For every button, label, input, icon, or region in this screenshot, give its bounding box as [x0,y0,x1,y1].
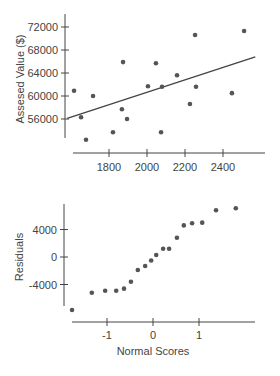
y-axis-ticks: -400004000 [29,224,68,291]
y-axis-title: Residuals [13,232,25,281]
data-points [72,29,247,142]
data-point [200,220,205,225]
residuals-normal-plot: -400004000 -101 Residuals Normal Scores [13,204,255,357]
y-tick-label: 0 [51,251,57,263]
data-point [167,246,172,251]
y-tick-label: 56000 [27,113,58,125]
data-point [136,268,141,273]
x-tick-label: 2200 [173,161,197,173]
x-tick-label: 2000 [135,161,159,173]
x-tick-label: 2400 [211,161,235,173]
y-tick-label: 4000 [33,224,57,236]
data-point [90,290,95,295]
data-point [154,61,159,66]
y-tick-label: -4000 [29,279,57,291]
x-tick-label: 1800 [97,161,121,173]
data-point [129,279,134,284]
y-axis-title: Assesed Value ($) [14,34,26,123]
data-point [182,223,187,228]
data-point [188,102,193,107]
data-point [125,117,130,122]
data-point [234,206,239,211]
data-point [84,137,89,142]
y-tick-label: 60000 [27,90,58,102]
data-point [242,29,247,34]
data-point [194,85,199,90]
data-point [121,60,126,65]
data-point [230,91,235,96]
data-point [175,73,180,78]
y-tick-label: 64000 [27,67,58,79]
x-axis-ticks: -101 [102,318,202,341]
data-point [143,264,148,269]
data-points [70,206,238,312]
data-point [111,130,116,135]
assessed-value-scatter-plot: 5600060000640006800072000 18002000220024… [14,14,265,173]
data-point [120,107,125,112]
data-point [175,235,180,240]
data-point [159,130,164,135]
x-tick-label: 1 [196,329,202,341]
data-point [91,94,96,99]
y-tick-label: 72000 [27,21,58,33]
data-point [193,33,198,38]
data-point [114,288,119,293]
charts-canvas: 5600060000640006800072000 18002000220024… [0,0,280,376]
x-axis-title: Normal Scores [117,345,190,357]
data-point [214,208,219,213]
data-point [161,246,166,251]
x-tick-label: 0 [150,329,156,341]
data-point [190,221,195,226]
data-point [160,85,165,90]
x-tick-label: -1 [102,329,112,341]
y-axis-ticks: 5600060000640006800072000 [27,21,69,125]
data-point [103,288,108,293]
data-point [70,308,75,313]
y-tick-label: 68000 [27,44,58,56]
data-point [154,253,159,258]
data-point [149,258,154,263]
data-point [122,286,127,291]
data-point [146,84,151,89]
data-point [72,89,77,94]
data-point [79,115,84,120]
